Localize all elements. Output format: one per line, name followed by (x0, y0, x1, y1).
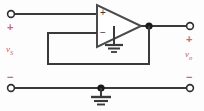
opamp-noninverting-input-sign: + (100, 8, 106, 18)
source-voltage-label: vS (6, 45, 13, 56)
input-terminal-positive (8, 11, 15, 18)
input-plus-sign: + (7, 22, 13, 33)
output-voltage-label: vo (185, 50, 192, 61)
output-terminal-positive (187, 23, 194, 30)
output-voltage-subscript: o (189, 54, 192, 61)
output-minus-sign: − (186, 72, 192, 83)
circuit-diagram: + − + − vS + − vo (0, 0, 204, 111)
output-terminal-negative (187, 85, 194, 92)
source-voltage-subscript: S (10, 49, 13, 56)
input-terminal-negative (8, 85, 15, 92)
output-plus-sign: + (186, 34, 192, 45)
opamp-inverting-input-sign: − (100, 28, 106, 38)
input-minus-sign: − (7, 72, 13, 83)
